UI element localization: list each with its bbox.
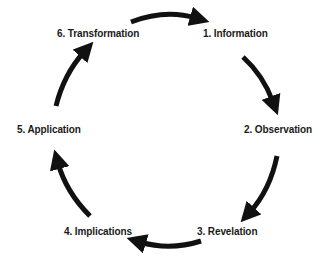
- step-information: 1. Information: [203, 28, 268, 39]
- arrow-observation-to-revelation: [250, 156, 277, 212]
- arrow-revelation-to-implications: [140, 241, 201, 246]
- step-observation: 2. Observation: [244, 124, 312, 135]
- cycle-diagram: 1. Information 2. Observation 3. Revelat…: [0, 0, 329, 271]
- cycle-arrows: [0, 0, 329, 271]
- arrow-implications-to-application: [58, 163, 90, 216]
- arrow-transformation-to-information: [131, 14, 196, 22]
- arrow-application-to-transformation: [56, 52, 84, 106]
- arrow-information-to-observation: [243, 57, 273, 102]
- step-transformation: 6. Transformation: [57, 28, 139, 39]
- step-application: 5. Application: [17, 124, 81, 135]
- step-revelation: 3. Revelation: [197, 226, 257, 237]
- step-implications: 4. Implications: [64, 226, 132, 237]
